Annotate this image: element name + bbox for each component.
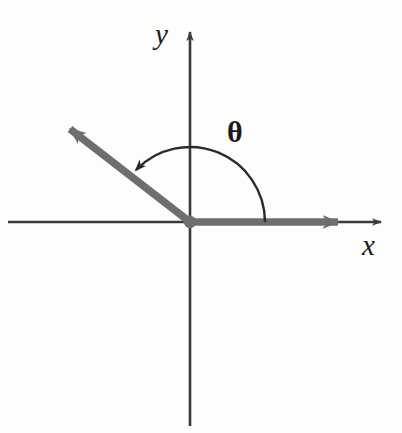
angle-diagram-figure: y x θ [0,0,402,433]
origin-dot [184,216,196,228]
y-axis-label: y [155,20,168,49]
angle-theta-label: θ [227,117,243,147]
x-axis-label: x [362,231,375,260]
angle-arc [136,147,265,222]
terminal-side-ray [70,129,190,222]
angle-diagram-svg [0,0,402,433]
